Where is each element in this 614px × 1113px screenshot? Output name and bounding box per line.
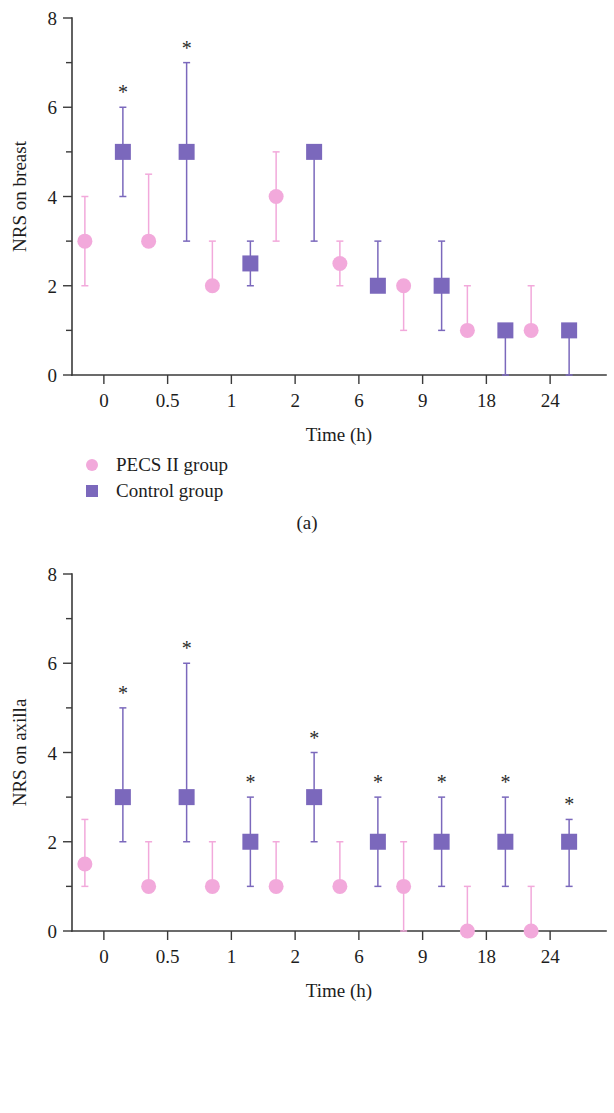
significance-asterisk: *	[500, 771, 510, 793]
data-point-marker	[306, 144, 322, 160]
data-point-marker	[524, 924, 539, 939]
data-point-marker	[269, 879, 284, 894]
data-point-marker	[396, 278, 411, 293]
data-point-marker	[205, 879, 220, 894]
data-point-marker	[332, 879, 347, 894]
x-tick-label: 24	[541, 390, 561, 411]
data-point-marker	[524, 323, 539, 338]
data-point-marker	[370, 278, 386, 294]
x-axis-title: Time (h)	[306, 980, 372, 1002]
x-tick-label: 0.5	[156, 946, 180, 967]
x-tick-label: 18	[477, 390, 496, 411]
panel-b: 0246800.512691824Time (h)NRS on axilla**…	[0, 556, 614, 1113]
data-point-marker	[434, 834, 450, 850]
significance-asterisk: *	[564, 793, 574, 815]
pecs-circle-icon	[86, 459, 98, 471]
x-tick-label: 9	[418, 390, 428, 411]
data-point-marker	[370, 834, 386, 850]
y-axis-title: NRS on axilla	[9, 698, 30, 806]
data-point-marker	[179, 144, 195, 160]
y-tick-label: 4	[48, 743, 58, 764]
legend-swatch-wrap	[86, 459, 116, 471]
data-point-marker	[434, 278, 450, 294]
y-tick-label: 0	[48, 365, 58, 386]
legend-label-control: Control group	[116, 480, 223, 502]
data-point-marker	[179, 789, 195, 805]
series-control: **	[115, 37, 577, 375]
x-tick-label: 2	[290, 946, 300, 967]
significance-asterisk: *	[118, 81, 128, 103]
legend-label-pecs: PECS II group	[116, 454, 228, 476]
figure-container: 0246800.512691824Time (h)NRS on breast**…	[0, 0, 614, 1113]
series-pecs	[77, 819, 538, 938]
series-control: ********	[115, 637, 577, 886]
significance-asterisk: *	[118, 682, 128, 704]
panel-a: 0246800.512691824Time (h)NRS on breast**…	[0, 0, 614, 556]
data-point-marker	[561, 322, 577, 338]
data-point-marker	[497, 322, 513, 338]
chart-a: 0246800.512691824Time (h)NRS on breast**	[0, 0, 614, 450]
y-tick-label: 4	[48, 187, 58, 208]
y-tick-label: 6	[48, 97, 58, 118]
significance-asterisk: *	[437, 771, 447, 793]
data-point-marker	[460, 323, 475, 338]
x-tick-label: 0	[99, 946, 109, 967]
data-point-marker	[115, 144, 131, 160]
significance-asterisk: *	[182, 37, 192, 59]
x-tick-label: 1	[227, 946, 237, 967]
legend-row-pecs: PECS II group	[86, 452, 228, 478]
x-tick-label: 2	[290, 390, 300, 411]
data-point-marker	[561, 834, 577, 850]
panel-caption-a: (a)	[0, 512, 614, 534]
legend-a: PECS II group Control group	[86, 452, 228, 504]
data-point-marker	[141, 234, 156, 249]
y-tick-label: 0	[48, 921, 58, 942]
data-point-marker	[242, 255, 258, 271]
data-point-marker	[77, 857, 92, 872]
data-point-marker	[332, 256, 347, 271]
y-tick-label: 2	[48, 276, 58, 297]
significance-asterisk: *	[182, 637, 192, 659]
series-pecs	[77, 152, 538, 338]
data-point-marker	[306, 789, 322, 805]
significance-asterisk: *	[245, 771, 255, 793]
x-tick-label: 1	[227, 390, 237, 411]
data-point-marker	[242, 834, 258, 850]
x-tick-label: 6	[354, 946, 364, 967]
y-tick-label: 2	[48, 832, 58, 853]
x-tick-label: 6	[354, 390, 364, 411]
x-tick-label: 24	[541, 946, 561, 967]
data-point-marker	[497, 834, 513, 850]
significance-asterisk: *	[373, 771, 383, 793]
chart-b: 0246800.512691824Time (h)NRS on axilla**…	[0, 556, 614, 1006]
y-tick-label: 8	[48, 564, 58, 585]
y-tick-label: 6	[48, 653, 58, 674]
data-point-marker	[269, 189, 284, 204]
control-square-icon	[86, 485, 98, 497]
legend-row-control: Control group	[86, 478, 228, 504]
data-point-marker	[115, 789, 131, 805]
data-point-marker	[396, 879, 411, 894]
x-axis-title: Time (h)	[306, 424, 372, 446]
data-point-marker	[77, 234, 92, 249]
significance-asterisk: *	[309, 727, 319, 749]
data-point-marker	[205, 278, 220, 293]
y-tick-label: 8	[48, 8, 58, 29]
x-tick-label: 0	[99, 390, 109, 411]
y-axis-title: NRS on breast	[9, 140, 30, 252]
legend-swatch-wrap	[86, 485, 116, 497]
x-tick-label: 0.5	[156, 390, 180, 411]
data-point-marker	[141, 879, 156, 894]
data-point-marker	[460, 924, 475, 939]
x-tick-label: 9	[418, 946, 428, 967]
x-tick-label: 18	[477, 946, 496, 967]
